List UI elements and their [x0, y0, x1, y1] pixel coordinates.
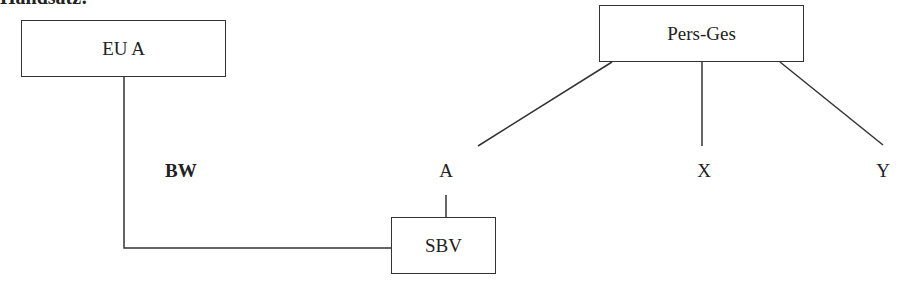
y-label: Y — [876, 160, 890, 182]
sbv-box: SBV — [391, 217, 496, 274]
pers-ges-to-a-line — [478, 62, 612, 146]
pers-ges-box: Pers-Ges — [599, 5, 804, 62]
eu-a-box: EU A — [21, 20, 226, 77]
x-label: X — [697, 160, 711, 182]
a-label: A — [439, 160, 453, 182]
pers-ges-label: Pers-Ges — [667, 23, 736, 45]
bw-label: BW — [165, 160, 197, 182]
sbv-label: SBV — [425, 235, 462, 257]
eu-a-label: EU A — [102, 38, 145, 60]
pers-ges-to-y-line — [780, 62, 883, 145]
